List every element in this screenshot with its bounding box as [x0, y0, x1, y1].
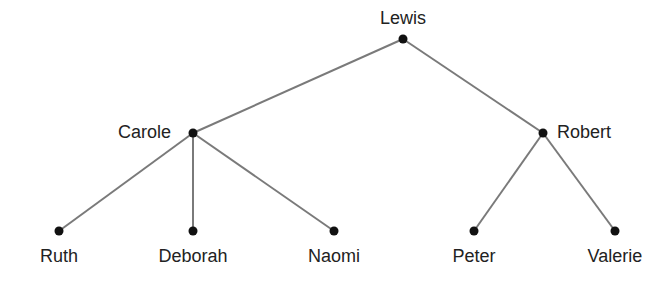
node-dot-ruth — [55, 227, 64, 236]
node-label-robert: Robert — [557, 123, 611, 141]
node-label-deborah: Deborah — [159, 247, 228, 265]
node-dot-naomi — [330, 227, 339, 236]
node-dot-lewis — [399, 35, 408, 44]
node-dot-deborah — [189, 227, 198, 236]
edge-lewis-robert — [403, 39, 543, 133]
node-dot-peter — [470, 227, 479, 236]
node-label-carole: Carole — [118, 123, 171, 141]
node-label-peter: Peter — [453, 247, 496, 265]
family-tree-diagram: Lewis Carole Robert Ruth Deborah Naomi P… — [0, 0, 663, 283]
node-dot-carole — [189, 129, 198, 138]
edge-robert-peter — [474, 133, 543, 231]
node-label-ruth: Ruth — [40, 247, 78, 265]
edge-carole-naomi — [193, 133, 334, 231]
node-label-lewis: Lewis — [380, 9, 426, 27]
edge-carole-ruth — [59, 133, 193, 231]
edge-lewis-carole — [193, 39, 403, 133]
node-dot-robert — [539, 129, 548, 138]
node-label-naomi: Naomi — [308, 247, 360, 265]
edge-robert-valerie — [543, 133, 615, 231]
node-label-valerie: Valerie — [588, 247, 643, 265]
node-dot-valerie — [611, 227, 620, 236]
